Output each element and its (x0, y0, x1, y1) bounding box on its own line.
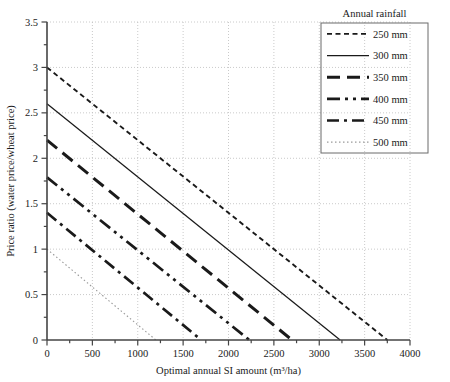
x-tick-label: 500 (85, 348, 101, 359)
series-line-400-mm (47, 177, 249, 340)
legend-item-350-mm[interactable]: 350 mm (327, 72, 408, 83)
legend-label: 400 mm (373, 94, 408, 105)
legend-item-400-mm[interactable]: 400 mm (327, 94, 408, 105)
legend-label: 500 mm (373, 137, 408, 148)
gridlines (47, 22, 410, 340)
x-tick-label: 2500 (263, 348, 284, 359)
legend-label: 350 mm (373, 72, 408, 83)
x-tick-label: 1000 (127, 348, 148, 359)
legend-box (321, 23, 428, 153)
y-tick-label: 2 (33, 153, 38, 164)
legend-label: 300 mm (373, 50, 408, 61)
y-tick-label: 1 (33, 244, 38, 255)
chart-figure: 0500100015002000250030003500400000.511.5… (0, 0, 450, 382)
x-tick-label: 1500 (173, 348, 194, 359)
line-chart: 0500100015002000250030003500400000.511.5… (0, 0, 450, 382)
y-tick-label: 3.5 (25, 17, 38, 28)
y-tick-label: 2.5 (25, 107, 38, 118)
y-axis-title: Price ratio (water price/wheat price) (5, 105, 17, 257)
x-tick-label: 3000 (309, 348, 330, 359)
legend-item-450-mm[interactable]: 450 mm (327, 115, 408, 126)
x-tick-label: 3500 (354, 348, 375, 359)
x-tick-label: 4000 (400, 348, 421, 359)
legend-item-300-mm[interactable]: 300 mm (327, 50, 408, 61)
y-tick-label: 0 (33, 335, 38, 346)
legend-item-250-mm[interactable]: 250 mm (327, 29, 408, 40)
x-tick-label: 0 (44, 348, 49, 359)
legend-label: 250 mm (373, 29, 408, 40)
y-tick-label: 0.5 (25, 289, 38, 300)
x-tick-label: 2000 (218, 348, 239, 359)
series-line-300-mm (47, 104, 340, 340)
legend-label: 450 mm (373, 115, 408, 126)
legend-item-500-mm[interactable]: 500 mm (327, 137, 408, 148)
y-tick-label: 1.5 (25, 198, 38, 209)
x-axis-title: Optimal annual SI amount (m³/ha) (156, 365, 301, 377)
y-tick-label: 3 (33, 62, 38, 73)
series-line-450-mm (47, 213, 201, 340)
series-line-350-mm (47, 140, 292, 340)
legend-title: Annual rainfall (343, 8, 407, 19)
